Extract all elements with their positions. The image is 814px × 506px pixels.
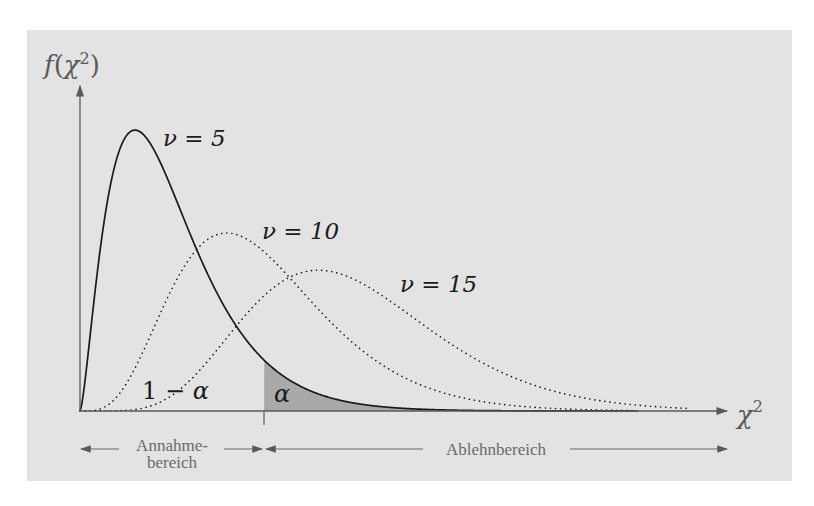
acceptance-region-label-line2: bereich bbox=[147, 453, 198, 472]
label-alpha-tail: α bbox=[274, 380, 290, 408]
chi-square-chart: f(χ2) χ2 ν = 5 ν = 10 ν = 15 1 − α α Ann… bbox=[0, 0, 814, 506]
alpha-tail-area bbox=[264, 360, 639, 411]
y-axis-label: f(χ2) bbox=[42, 49, 100, 80]
x-axis-label: χ2 bbox=[735, 397, 763, 430]
curve-nu-5 bbox=[80, 130, 638, 411]
rejection-region-label: Ablehnbereich bbox=[446, 440, 547, 459]
label-nu-15: ν = 15 bbox=[400, 271, 477, 297]
label-nu-5: ν = 5 bbox=[163, 125, 226, 151]
label-nu-10: ν = 10 bbox=[262, 218, 339, 244]
label-one-minus-alpha: 1 − α bbox=[142, 377, 209, 405]
